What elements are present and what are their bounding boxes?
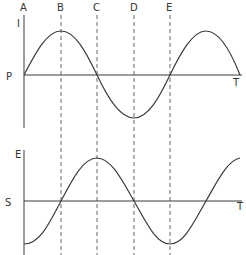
- top-x-axis-label: T: [232, 77, 240, 88]
- top-y-axis-label: I: [17, 18, 20, 29]
- bottom-x-axis-label: T: [236, 201, 244, 212]
- marker-lines: [61, 15, 170, 255]
- marker-label-d: D: [130, 2, 138, 13]
- bottom-graph: E S T: [5, 149, 244, 255]
- bottom-y-axis-label: E: [15, 149, 21, 160]
- marker-label-e: E: [166, 2, 172, 13]
- bottom-origin-label: S: [5, 197, 11, 208]
- top-origin-label: P: [6, 71, 12, 82]
- waveform-diagram: A B C D E I P T E S T: [0, 0, 246, 255]
- top-graph: I P T: [6, 15, 242, 128]
- marker-label-b: B: [57, 2, 64, 13]
- marker-label-a: A: [20, 2, 27, 13]
- marker-label-c: C: [93, 2, 100, 13]
